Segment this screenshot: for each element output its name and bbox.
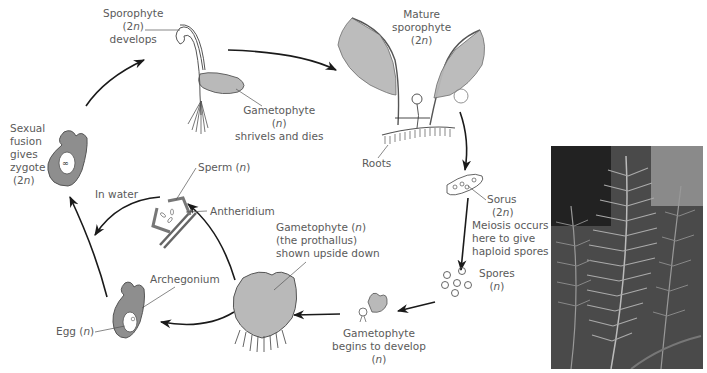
arrow-spores-to-gametophyte [398, 302, 435, 311]
arrow-mature-to-sorus [460, 112, 467, 170]
label-egg: Egg (n) [56, 325, 94, 338]
label-meiosis: Meiosis occurs here to give haploid spor… [472, 219, 549, 258]
antheridium-illustration [153, 168, 207, 248]
arrow-archegonium-to-zygote [70, 197, 107, 297]
label-in-water: In water [95, 188, 138, 201]
label-sporophyte-develops: Sporophyte (2n) develops [103, 7, 163, 46]
arrow-young-to-prothallus [294, 314, 340, 315]
label-roots: Roots [362, 157, 391, 170]
zygote-archegonium-illustration: ∞ [48, 131, 87, 186]
svg-text:∞: ∞ [62, 159, 69, 168]
young-gametophyte-illustration [359, 293, 387, 322]
label-gametophyte-begins: Gametophyte begins to develop (n) [332, 327, 426, 366]
spores-illustration [442, 268, 472, 297]
label-sorus: Sorus (2n) [487, 193, 517, 219]
label-gametophyte-shrivels: Gametophyte (n) shrivels and dies [235, 104, 323, 143]
arrow-sporophyte-to-mature [228, 50, 336, 70]
fern-photo-graphic [551, 146, 703, 369]
label-archegonium: Archegonium [150, 273, 220, 286]
prothallus-illustration [233, 262, 306, 352]
fern-photograph [551, 146, 703, 369]
sorus-illustration [447, 174, 486, 200]
label-sexual-fusion: Sexual fusion gives zygote (2n) [10, 122, 45, 187]
arrow-prothallus-to-archegonium [161, 312, 234, 324]
label-prothallus: Gametophyte (n) (the prothallus) shown u… [276, 221, 380, 260]
arrow-sorus-to-spores [461, 198, 468, 270]
egg-archegonium-illustration [95, 282, 175, 338]
label-mature-sporophyte: Mature sporophyte (2n) [392, 8, 451, 47]
arrow-zygote-to-sporophyte [86, 60, 144, 106]
label-spores: Spores (n) [479, 267, 515, 293]
arrow-sperm-in-water [95, 197, 160, 235]
label-antheridium: Antheridium [210, 205, 275, 218]
label-sperm: Sperm (n) [198, 161, 250, 174]
